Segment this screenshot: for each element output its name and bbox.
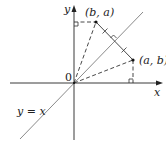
point-ab-label: (a, b) <box>139 54 166 67</box>
equal-tick-mark-lower <box>122 48 127 53</box>
right-angle-mark-x-axis <box>129 79 133 83</box>
line-y-equals-x <box>20 12 143 139</box>
x-axis-arrow-icon <box>156 81 163 86</box>
diagram-canvas: y x 0 (b, a) (a, b) y = x <box>0 0 166 151</box>
point-ba <box>94 20 97 23</box>
right-angle-mark-y-axis <box>74 22 78 26</box>
dashed-origin-to-ba <box>74 22 96 83</box>
x-axis-label: x <box>154 86 161 99</box>
origin-point <box>73 82 75 84</box>
dashed-origin-to-ab <box>74 60 133 83</box>
y-axis-label: y <box>63 3 71 16</box>
y-axis-arrow-icon <box>72 5 77 12</box>
right-angle-mark-midpoint <box>111 35 117 38</box>
line-y-equals-x-label: y = x <box>16 105 46 118</box>
reflection-diagram: y x 0 (b, a) (a, b) y = x <box>0 0 166 151</box>
point-ab <box>131 58 134 61</box>
origin-label: 0 <box>65 71 72 84</box>
point-ba-label: (b, a) <box>85 6 114 19</box>
